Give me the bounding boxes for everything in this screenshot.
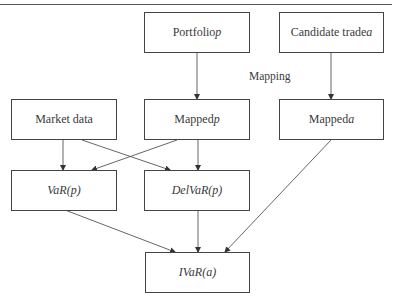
node-market-data-label: Market data: [35, 112, 93, 127]
node-delvar-p-label: DelVaR(p): [172, 183, 223, 198]
node-var-p-label: VaR(p): [47, 183, 80, 198]
node-mapped-a-var: a: [348, 112, 354, 127]
node-ivar-a: IVaR(a): [145, 252, 250, 293]
mapping-label: Mapping: [249, 70, 291, 82]
node-mapped-a: Mapped a: [279, 99, 384, 140]
node-mapped-p: Mapped p: [144, 99, 250, 140]
node-mapped-p-label: Mapped: [174, 112, 213, 127]
node-delvar-p: DelVaR(p): [144, 170, 250, 211]
node-var-p: VaR(p): [11, 170, 117, 211]
edge-var-to-ivar: [65, 210, 175, 252]
node-portfolio-var: p: [215, 25, 221, 40]
node-candidate-trade: Candidate trade a: [279, 12, 384, 53]
node-portfolio: Portfolio p: [144, 12, 250, 53]
node-mapped-a-label: Mapped: [309, 112, 348, 127]
node-candidate-var: a: [366, 25, 372, 40]
node-market-data: Market data: [11, 99, 117, 140]
edge-market-to-delvar: [82, 140, 170, 170]
node-mapped-p-var: p: [214, 112, 220, 127]
edge-mapped-p-to-var: [92, 140, 177, 170]
node-candidate-label: Candidate trade: [291, 25, 367, 40]
node-portfolio-label: Portfolio: [173, 25, 216, 40]
node-ivar-a-label: IVaR(a): [179, 265, 216, 280]
